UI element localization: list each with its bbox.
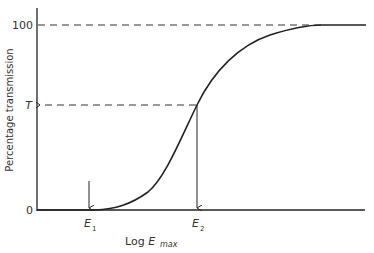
transmission-curve (37, 25, 366, 210)
transmission-chart: 100 T 0 E 1 E 2 Log E max Percentage tra… (0, 0, 374, 253)
y-tick-0: 0 (26, 204, 33, 217)
x-axis-label-subscript: max (160, 240, 178, 249)
e2-subscript: 2 (200, 225, 204, 233)
e2-label: E (192, 217, 199, 230)
e1-subscript: 1 (92, 225, 96, 233)
y-tick-100: 100 (12, 19, 33, 32)
e1-label: E (84, 217, 91, 230)
x-axis-label: Log E (125, 235, 155, 248)
y-axis-label: Percentage transmission (4, 48, 15, 171)
y-tick-T: T (25, 99, 33, 112)
